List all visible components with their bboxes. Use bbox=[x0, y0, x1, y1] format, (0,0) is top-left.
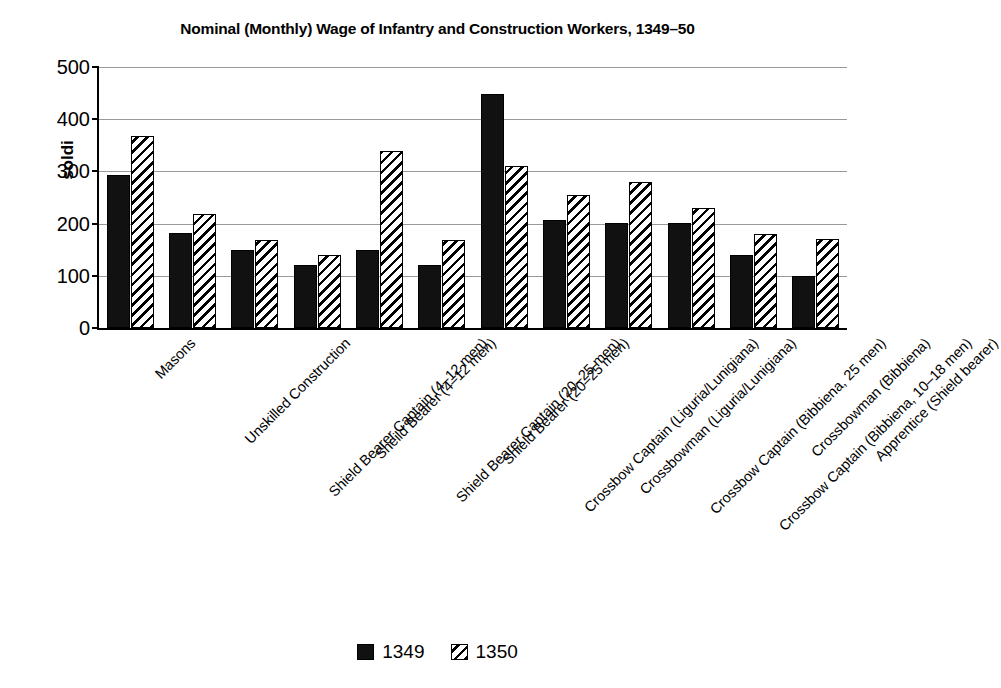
bar-group bbox=[481, 67, 528, 328]
bar-1349-5 bbox=[356, 250, 379, 328]
bar-1350-10 bbox=[692, 208, 715, 328]
x-axis-label: Masons bbox=[152, 335, 199, 382]
chart-title: Nominal (Monthly) Wage of Infantry and C… bbox=[0, 20, 875, 38]
bar-1349-2 bbox=[169, 233, 192, 328]
bar-1349-7 bbox=[481, 94, 504, 328]
x-axis-category-labels: MasonsUnskilled ConstructionShield Beare… bbox=[97, 329, 857, 619]
legend-label: 1349 bbox=[382, 641, 424, 663]
bar-1350-12 bbox=[816, 239, 839, 328]
bar-1350-5 bbox=[380, 151, 403, 328]
y-tick-mark bbox=[92, 66, 99, 68]
bar-1349-1 bbox=[107, 175, 130, 328]
y-tick-mark bbox=[92, 275, 99, 277]
x-axis-label: Apprentice (Shield bearer) bbox=[872, 335, 1001, 464]
bar-1350-7 bbox=[505, 166, 528, 328]
bar-group bbox=[107, 67, 154, 328]
y-tick-label: 200 bbox=[57, 212, 90, 235]
bar-group bbox=[231, 67, 278, 328]
x-axis-label: Unskilled Construction bbox=[241, 335, 353, 447]
legend-swatch-hatched-square bbox=[451, 644, 468, 660]
bar-group bbox=[668, 67, 715, 328]
bar-1349-6 bbox=[418, 265, 441, 328]
y-tick-label: 100 bbox=[57, 264, 90, 287]
plot-area: 0100200300400500 bbox=[97, 67, 847, 330]
y-tick-label: 500 bbox=[57, 56, 90, 79]
bar-group bbox=[294, 67, 341, 328]
legend-swatch-solid-black-square bbox=[357, 644, 374, 660]
bar-group bbox=[418, 67, 465, 328]
y-tick-mark bbox=[92, 223, 99, 225]
bar-group bbox=[792, 67, 839, 328]
bar-1350-2 bbox=[193, 214, 216, 328]
x-axis-label: Shield Bearer (20–25 men) bbox=[499, 335, 632, 468]
bar-1349-11 bbox=[730, 255, 753, 328]
legend-item: 1349 bbox=[357, 641, 424, 663]
y-tick-label: 400 bbox=[57, 108, 90, 131]
bar-1350-11 bbox=[754, 234, 777, 328]
bar-1349-3 bbox=[231, 250, 254, 328]
bar-group bbox=[169, 67, 216, 328]
bar-1349-8 bbox=[543, 220, 566, 328]
y-tick-label: 300 bbox=[57, 160, 90, 183]
bar-1349-10 bbox=[668, 223, 691, 328]
bar-1349-4 bbox=[294, 265, 317, 328]
bar-1349-12 bbox=[792, 276, 815, 328]
x-axis-label: Crossbow Captain (Bibbiena, 10–18 men) bbox=[776, 335, 975, 534]
bar-1350-8 bbox=[567, 195, 590, 328]
bar-1350-3 bbox=[255, 240, 278, 328]
chart-legend: 13491350 bbox=[0, 641, 875, 663]
legend-label: 1350 bbox=[476, 641, 518, 663]
legend-item: 1350 bbox=[451, 641, 518, 663]
bar-group bbox=[605, 67, 652, 328]
x-axis-label: Crossbowman (Liguria/Lunigiana) bbox=[636, 335, 798, 497]
bar-group bbox=[543, 67, 590, 328]
y-tick-mark bbox=[92, 118, 99, 120]
bar-1350-4 bbox=[318, 255, 341, 328]
bar-1350-9 bbox=[629, 182, 652, 328]
bar-1350-6 bbox=[442, 240, 465, 328]
bar-1350-1 bbox=[131, 136, 154, 328]
y-tick-label: 0 bbox=[79, 317, 90, 340]
x-axis-label: Sheild Bearer (4–12 men) bbox=[372, 335, 499, 462]
y-tick-mark bbox=[92, 170, 99, 172]
bar-group bbox=[730, 67, 777, 328]
bar-1349-9 bbox=[605, 223, 628, 328]
bar-group bbox=[356, 67, 403, 328]
bars-layer bbox=[99, 67, 847, 328]
